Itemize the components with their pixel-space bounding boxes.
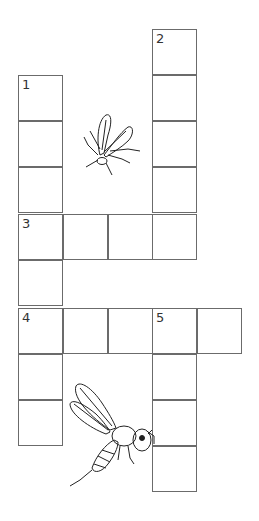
- crossword-cell[interactable]: [108, 214, 153, 260]
- crossword-cell[interactable]: [152, 75, 197, 121]
- crossword-cell[interactable]: [18, 260, 63, 306]
- bee-icon: [62, 378, 157, 488]
- crossword-cell[interactable]: [63, 308, 108, 354]
- crossword-cell[interactable]: [108, 308, 153, 354]
- crossword-cell[interactable]: 5: [152, 308, 197, 354]
- clue-number: 1: [22, 78, 30, 91]
- crossword-cell[interactable]: 3: [18, 214, 63, 260]
- crossword-cell[interactable]: [152, 354, 197, 400]
- crossword-cell[interactable]: [18, 400, 63, 446]
- crossword-cell[interactable]: [63, 214, 108, 260]
- crossword-cell[interactable]: [18, 121, 63, 167]
- crossword-cell[interactable]: 1: [18, 75, 63, 121]
- clue-number: 3: [22, 217, 30, 230]
- crossword-cell[interactable]: [152, 446, 197, 492]
- crossword-cell[interactable]: 4: [18, 308, 63, 354]
- crossword-cell[interactable]: [152, 400, 197, 446]
- clue-number: 4: [22, 311, 30, 324]
- crossword-cell[interactable]: [152, 214, 197, 260]
- crossword-cell[interactable]: [152, 167, 197, 213]
- clue-number: 2: [156, 32, 164, 45]
- clue-number: 5: [156, 311, 164, 324]
- fly-icon: [78, 105, 143, 175]
- crossword-cell[interactable]: 2: [152, 29, 197, 75]
- crossword-cell[interactable]: [152, 121, 197, 167]
- crossword-cell[interactable]: [197, 308, 242, 354]
- crossword-cell[interactable]: [18, 167, 63, 213]
- crossword-cell[interactable]: [18, 354, 63, 400]
